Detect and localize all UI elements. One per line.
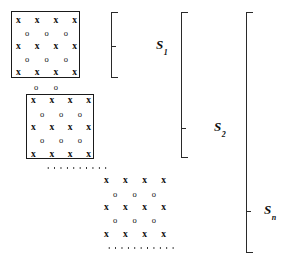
- dotted-line-lower: [106, 247, 176, 249]
- label-sn-base: S: [264, 202, 271, 217]
- label-s2-base: S: [214, 119, 221, 134]
- bracket-tick: [181, 128, 186, 129]
- label-s2: S2: [214, 120, 225, 137]
- bracket-tick: [246, 211, 251, 212]
- label-s1-subscript: 1: [164, 48, 168, 57]
- label-sn-subscript: n: [272, 213, 276, 222]
- matrix-block-2: x x x x o o o x x x x o o o x x x x: [26, 94, 94, 159]
- bracket-tick: [111, 46, 116, 47]
- bracket-s1: [111, 12, 118, 78]
- matrix-block-n: x x x x o o o x x x x o o o x x x x: [104, 176, 170, 240]
- bracket-s2: [181, 12, 188, 158]
- label-s2-subscript: 2: [222, 130, 226, 139]
- dotted-line-upper: [45, 167, 107, 169]
- bracket-sn: [246, 12, 253, 253]
- figure-canvas: x x x x o o o x x x x o o o x x x x: [0, 0, 291, 265]
- matrix-block-1: x x x x o o o x x x x o o o x x x x: [11, 11, 80, 78]
- interblock-marks-1-2: o o: [34, 84, 58, 90]
- label-s1: S1: [156, 38, 167, 55]
- label-s1-base: S: [156, 37, 163, 52]
- label-sn: Sn: [264, 203, 276, 220]
